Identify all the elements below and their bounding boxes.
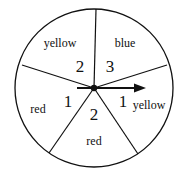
sector-number-left: 1	[64, 92, 73, 111]
sector-number-right: 1	[119, 92, 128, 111]
sector-number-bottom: 2	[90, 105, 99, 124]
pivot-dot	[91, 85, 97, 91]
sector-color-label-right: yellow	[133, 98, 166, 112]
sector-color-label-top-left: yellow	[44, 36, 77, 50]
sector-color-label-top-right: blue	[115, 36, 136, 50]
sector-number-top-left: 2	[76, 57, 85, 76]
sector-number-top-right: 3	[106, 57, 115, 76]
spinner-diagram: yellow2blue3yellow1red2red1	[0, 0, 183, 175]
sector-color-label-bottom: red	[86, 134, 101, 148]
sector-color-label-left: red	[30, 102, 45, 116]
